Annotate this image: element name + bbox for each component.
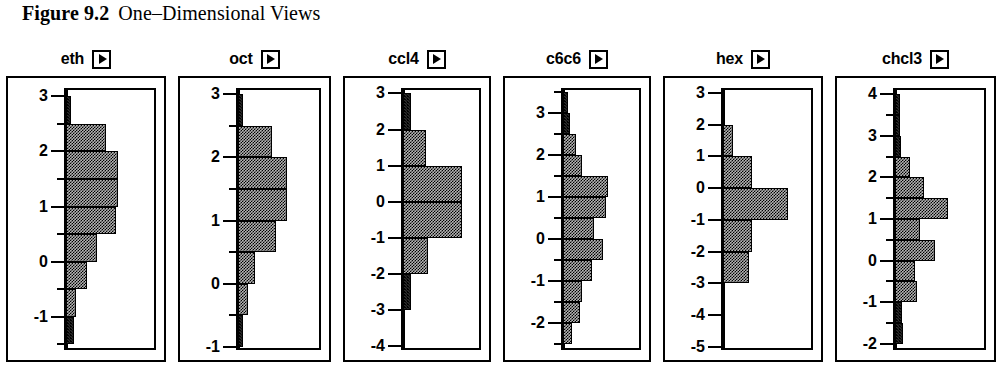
panel-header-oct: oct bbox=[172, 44, 337, 74]
triangle-glyph bbox=[433, 54, 441, 64]
axis-tick-major bbox=[708, 251, 723, 253]
histogram-bar bbox=[563, 113, 570, 134]
panel-ccl4: ccl43210-1-2-3-4 bbox=[337, 44, 497, 366]
axis-tick-major bbox=[548, 322, 563, 324]
panel-header-chcl3: chcl3 bbox=[829, 44, 1002, 74]
axis-tick-label: -1 bbox=[837, 294, 877, 310]
axis-tick-label: 2 bbox=[665, 117, 705, 133]
histogram-bar bbox=[238, 252, 255, 284]
axis-tick-major bbox=[708, 124, 723, 126]
histogram-bar bbox=[895, 240, 935, 261]
histogram-bar bbox=[895, 136, 901, 157]
triangle-glyph bbox=[99, 54, 107, 64]
axis-tick-major bbox=[388, 201, 403, 203]
axis-tick-major bbox=[51, 206, 66, 208]
axis-tick-label: 1 bbox=[837, 211, 877, 227]
axis-tick-minor bbox=[554, 343, 563, 345]
axis-tick-label: 2 bbox=[837, 169, 877, 185]
axis-tick-major bbox=[880, 93, 895, 95]
histogram-bar bbox=[403, 238, 428, 274]
play-triangle-icon[interactable] bbox=[92, 50, 111, 69]
axis-tick-major bbox=[51, 95, 66, 97]
plot-window-hex: 3210-1-2-3-4-5 bbox=[663, 76, 823, 362]
figure-caption: Figure 9.2 One–Dimensional Views bbox=[22, 2, 320, 28]
axis-tick-major bbox=[548, 154, 563, 156]
plot-window-oct: 3210-1 bbox=[178, 76, 331, 362]
triangle-glyph bbox=[595, 54, 603, 64]
histogram-bar bbox=[563, 260, 592, 281]
axis-tick-major bbox=[880, 218, 895, 220]
histogram-bar bbox=[723, 220, 752, 252]
axis-tick-major bbox=[708, 314, 723, 316]
axis-tick-label: 3 bbox=[665, 85, 705, 101]
axis-tick-major bbox=[708, 282, 723, 284]
axis-tick-minor bbox=[57, 288, 66, 290]
play-triangle-icon[interactable] bbox=[589, 50, 608, 69]
histogram-bar bbox=[723, 252, 749, 284]
histogram-bar bbox=[563, 176, 608, 197]
histogram-bar bbox=[66, 151, 118, 179]
panel-header-eth: eth bbox=[0, 44, 172, 74]
play-triangle-icon[interactable] bbox=[930, 50, 949, 69]
axis-tick-major bbox=[51, 261, 66, 263]
axis-tick-minor bbox=[886, 156, 895, 158]
histogram-bar bbox=[66, 179, 118, 207]
histogram-bar bbox=[563, 155, 582, 176]
axis-tick-major bbox=[548, 112, 563, 114]
axis-tick-major bbox=[548, 238, 563, 240]
variable-label-oct: oct bbox=[229, 51, 252, 67]
axis-tick-label: -5 bbox=[665, 339, 705, 355]
axis-tick-minor bbox=[554, 217, 563, 219]
triangle-glyph bbox=[757, 54, 765, 64]
histogram-bar bbox=[66, 289, 76, 317]
axis-tick-major bbox=[388, 237, 403, 239]
axis-tick-major bbox=[880, 260, 895, 262]
histogram-bar bbox=[403, 130, 426, 166]
axis-tick-major bbox=[223, 283, 238, 285]
axis-tick-label: -2 bbox=[837, 336, 877, 352]
axis-tick-minor bbox=[554, 133, 563, 135]
triangle-glyph bbox=[267, 54, 275, 64]
axis-tick-minor bbox=[229, 314, 238, 316]
play-triangle-icon[interactable] bbox=[751, 50, 770, 69]
panel-header-hex: hex bbox=[657, 44, 829, 74]
panel-hex: hex3210-1-2-3-4-5 bbox=[657, 44, 829, 366]
histogram-bar bbox=[895, 281, 917, 302]
variable-label-ccl4: ccl4 bbox=[388, 51, 418, 67]
play-triangle-icon[interactable] bbox=[427, 50, 446, 69]
play-triangle-icon[interactable] bbox=[261, 50, 280, 69]
axis-tick-label: 3 bbox=[8, 88, 48, 104]
histogram-bar bbox=[66, 96, 71, 124]
axis-tick-major bbox=[548, 280, 563, 282]
axis-tick-label: -3 bbox=[345, 302, 385, 318]
axis-tick-major bbox=[388, 345, 403, 347]
histogram-bar bbox=[723, 188, 788, 220]
axis-tick-major bbox=[388, 165, 403, 167]
axis-tick-label: -4 bbox=[665, 307, 705, 323]
panel-eth: eth3210-1 bbox=[0, 44, 172, 366]
panel-chcl3: chcl343210-1-2 bbox=[829, 44, 1002, 366]
histogram-bar bbox=[238, 126, 272, 158]
axis-tick-label: 0 bbox=[345, 194, 385, 210]
figure-title: One–Dimensional Views bbox=[118, 2, 320, 25]
histogram-bar bbox=[895, 115, 900, 136]
axis-tick-minor bbox=[886, 197, 895, 199]
histogram-bar bbox=[895, 157, 910, 178]
histogram-bar bbox=[723, 156, 752, 188]
axis-tick-label: 2 bbox=[180, 149, 220, 165]
histogram-bar bbox=[563, 134, 576, 155]
histogram-bar bbox=[563, 239, 603, 260]
variable-label-hex: hex bbox=[716, 51, 743, 67]
histogram-bar bbox=[895, 177, 924, 198]
histogram-bar bbox=[403, 202, 462, 238]
axis-tick-minor bbox=[57, 178, 66, 180]
histogram-bar bbox=[563, 302, 580, 323]
axis-tick-label: 1 bbox=[345, 158, 385, 174]
histogram-bar bbox=[563, 92, 568, 113]
axis-tick-minor bbox=[229, 125, 238, 127]
axis-tick-major bbox=[388, 273, 403, 275]
panel-oct: oct3210-1 bbox=[172, 44, 337, 366]
axis-tick-minor bbox=[886, 280, 895, 282]
axis-tick-major bbox=[223, 156, 238, 158]
histogram-bar bbox=[238, 315, 243, 347]
